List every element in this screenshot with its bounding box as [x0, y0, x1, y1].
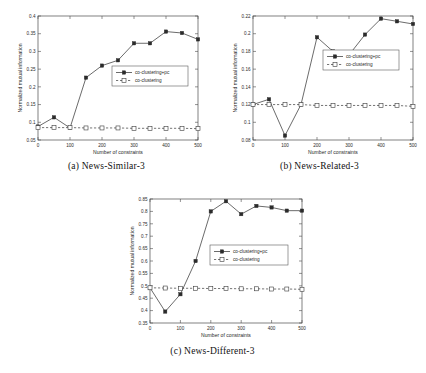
y-tick-label: 0.12	[242, 102, 251, 107]
x-tick-label: 100	[177, 326, 185, 331]
x-tick-label: 0	[149, 326, 152, 331]
data-point-marker	[283, 134, 286, 137]
data-point-marker	[209, 287, 213, 291]
x-axis-title: Number of constraints	[201, 332, 251, 338]
data-point-marker	[194, 286, 198, 290]
y-tick-label: 0.1	[29, 120, 36, 125]
data-point-marker	[300, 287, 304, 291]
chart-a-canvas: 01002003004005000.050.10.150.20.250.30.3…	[0, 0, 213, 160]
x-tick-label: 300	[345, 143, 353, 148]
chart-b: 01002003004005000.080.10.120.140.160.180…	[213, 0, 426, 160]
figure-panel-c: 01002003004005000.350.40.450.50.550.60.6…	[106, 183, 319, 373]
data-point-marker	[178, 286, 182, 290]
y-tick-label: 0.08	[242, 138, 251, 143]
x-tick-label: 400	[268, 326, 276, 331]
data-point-marker	[411, 104, 415, 108]
legend-marker	[122, 71, 125, 74]
y-tick-label: 0.35	[139, 321, 148, 326]
legend-label: co-clustering	[346, 62, 373, 67]
data-point-marker	[379, 103, 383, 107]
data-point-marker	[52, 116, 55, 119]
data-point-marker	[116, 126, 120, 130]
data-point-marker	[36, 126, 40, 130]
x-tick-label: 100	[66, 143, 74, 148]
y-axis-title: Normalized mutual information	[17, 43, 23, 112]
figure-panel-b: 01002003004005000.080.10.120.140.160.180…	[213, 0, 426, 182]
y-tick-label: 0.35	[27, 31, 36, 36]
x-tick-label: 500	[298, 326, 306, 331]
data-point-marker	[100, 126, 104, 130]
data-point-marker	[132, 126, 136, 130]
y-tick-label: 0.05	[27, 138, 36, 143]
y-tick-label: 0.85	[139, 197, 148, 202]
legend-label: co-clustering+pc	[233, 249, 268, 254]
y-tick-label: 0.65	[139, 246, 148, 251]
y-tick-label: 0.18	[242, 49, 251, 54]
y-tick-label: 0.14	[242, 85, 251, 90]
y-tick-label: 0.3	[29, 49, 36, 54]
x-tick-label: 500	[194, 143, 202, 148]
legend-label: co-clustering	[233, 257, 260, 262]
y-tick-label: 0.2	[244, 31, 251, 36]
data-point-marker	[267, 103, 271, 107]
data-point-marker	[148, 126, 152, 130]
data-point-marker	[267, 98, 270, 101]
data-point-marker	[299, 103, 303, 107]
legend-marker	[220, 258, 224, 262]
data-point-marker	[209, 210, 212, 213]
data-point-marker	[84, 126, 88, 130]
figure-panel-a: 01002003004005000.050.10.150.20.250.30.3…	[0, 0, 213, 182]
y-tick-label: 0.4	[141, 308, 148, 313]
legend-marker	[333, 63, 337, 67]
data-point-marker	[196, 38, 199, 41]
legend-label: co-clustering+pc	[135, 70, 170, 75]
y-tick-label: 0.22	[242, 14, 251, 19]
y-tick-label: 0.7	[141, 234, 148, 239]
x-tick-label: 400	[162, 143, 170, 148]
data-point-marker	[163, 286, 167, 290]
chart-b-canvas: 01002003004005000.080.10.120.140.160.180…	[213, 0, 426, 160]
data-point-marker	[411, 22, 414, 25]
legend-label: co-clustering+pc	[346, 54, 381, 59]
data-point-marker	[148, 286, 152, 290]
data-point-marker	[164, 310, 167, 313]
legend-label: co-clustering	[135, 78, 162, 83]
x-tick-label: 200	[313, 143, 321, 148]
data-point-marker	[270, 287, 274, 291]
y-tick-label: 0.1	[244, 120, 251, 125]
caption-a: (a) News-Similar-3	[0, 161, 213, 171]
x-tick-label: 200	[207, 326, 215, 331]
data-point-marker	[239, 287, 243, 291]
y-tick-label: 0.8	[141, 209, 148, 214]
x-axis-title: Number of constraints	[93, 149, 143, 155]
data-point-marker	[300, 209, 303, 212]
data-point-marker	[68, 126, 72, 130]
data-point-marker	[224, 287, 228, 291]
chart-a: 01002003004005000.050.10.150.20.250.30.3…	[0, 0, 213, 160]
data-point-marker	[240, 212, 243, 215]
data-point-marker	[100, 64, 103, 67]
legend-marker	[333, 55, 336, 58]
data-point-marker	[52, 126, 56, 130]
data-point-marker	[331, 103, 335, 107]
y-tick-label: 0.25	[27, 67, 36, 72]
data-point-marker	[180, 126, 184, 130]
x-tick-label: 100	[281, 143, 289, 148]
x-tick-label: 300	[237, 326, 245, 331]
data-point-marker	[179, 293, 182, 296]
chart-c-canvas: 01002003004005000.350.40.450.50.550.60.6…	[106, 183, 319, 345]
data-point-marker	[395, 103, 399, 107]
caption-c: (c) News-Different-3	[106, 346, 319, 356]
y-tick-label: 0.75	[139, 222, 148, 227]
x-axis-title: Number of constraints	[308, 149, 358, 155]
y-tick-label: 0.5	[141, 284, 148, 289]
data-point-marker	[347, 103, 351, 107]
chart-c: 01002003004005000.350.40.450.50.550.60.6…	[106, 183, 319, 343]
data-point-marker	[116, 59, 119, 62]
legend-marker	[122, 79, 126, 83]
data-point-marker	[194, 259, 197, 262]
y-tick-label: 0.2	[29, 85, 36, 90]
data-point-marker	[164, 126, 168, 130]
data-point-marker	[395, 20, 398, 23]
series-line-co-clustering-pc	[253, 19, 413, 136]
